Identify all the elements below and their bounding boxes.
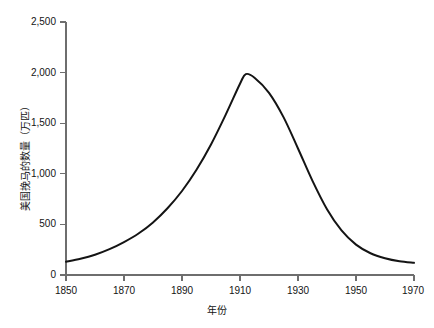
- x-tick-label-1850: 1850: [44, 285, 88, 296]
- data-series-line: [66, 74, 414, 263]
- x-tick-label-1910: 1910: [218, 285, 262, 296]
- horse-population-chart: 2,500 2,000 1,500 1,000 500 0 1850 1870 …: [0, 0, 434, 328]
- x-tick-label-1970: 1970: [392, 285, 434, 296]
- x-tick-label-1870: 1870: [102, 285, 146, 296]
- y-tick-label-2500: 2,500: [12, 16, 56, 27]
- chart-plot-area: [0, 0, 434, 328]
- y-tick-marks: [60, 22, 66, 275]
- x-tick-label-1950: 1950: [334, 285, 378, 296]
- y-tick-label-0: 0: [12, 269, 56, 280]
- y-axis-title: 美国挽马的数量（万匹）: [17, 76, 32, 236]
- x-tick-label-1890: 1890: [160, 285, 204, 296]
- x-tick-label-1930: 1930: [276, 285, 320, 296]
- x-axis-title: 年份: [0, 302, 434, 317]
- x-tick-marks: [66, 275, 414, 281]
